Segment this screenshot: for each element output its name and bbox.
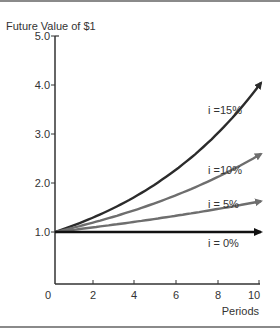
x-tick-label: 2 xyxy=(90,289,96,301)
y-tick-label: 1.0 xyxy=(35,226,50,238)
y-tick-label: 2.0 xyxy=(35,177,50,189)
x-axis-label: Periods xyxy=(222,305,260,317)
y-tick-label: 5.0 xyxy=(35,30,50,42)
y-tick-label: 3.0 xyxy=(35,128,50,140)
x-tick-label: 10 xyxy=(248,289,260,301)
series-label-15: i =15% xyxy=(208,104,242,116)
x-tick-label: 8 xyxy=(215,289,221,301)
y-ticks: 5.0 4.0 3.0 2.0 1.0 xyxy=(35,30,55,238)
x-ticks: 0 2 4 6 8 10 xyxy=(45,280,260,301)
series-label-0: i = 0% xyxy=(208,237,239,249)
x-tick-label: 6 xyxy=(173,289,179,301)
series-label-5: i = 5% xyxy=(208,198,239,210)
x-tick-label: 4 xyxy=(131,289,137,301)
series-label-10: i =10% xyxy=(208,164,242,176)
x-tick-label: 0 xyxy=(45,289,51,301)
future-value-chart: Future Value of $1 5.0 4.0 3.0 2.0 1.0 0… xyxy=(0,0,280,334)
y-tick-label: 4.0 xyxy=(35,79,50,91)
y-axis-label: Future Value of $1 xyxy=(6,20,96,32)
